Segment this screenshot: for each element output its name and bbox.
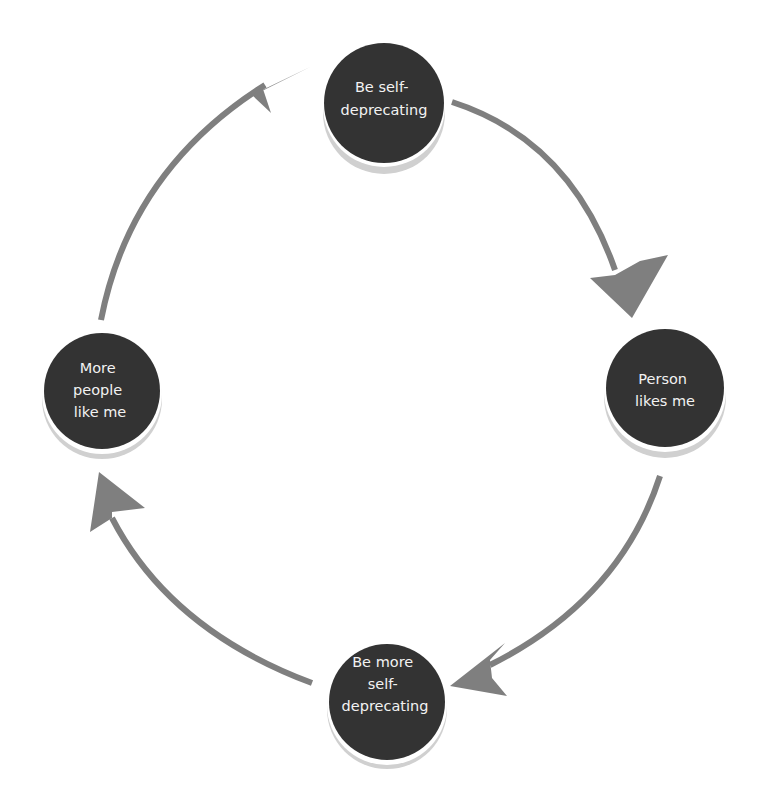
node-right: Person likes me (604, 329, 726, 458)
node-left: More people like me (42, 333, 162, 459)
arrow-top-to-right (452, 102, 615, 270)
arrowhead-top-icon (252, 67, 310, 113)
arrow-right-to-bottom (490, 476, 660, 665)
arrowhead-right-icon (590, 255, 668, 318)
node-label: More people like me (73, 360, 127, 420)
cycle-diagram: Be self- deprecating Person likes me Be … (0, 0, 768, 803)
arrowhead-bottom-icon (450, 643, 507, 696)
node-bottom: Be more self- deprecating (327, 644, 447, 769)
node-top: Be self- deprecating (323, 43, 445, 174)
arrow-left-to-top (101, 85, 265, 320)
arrows (101, 85, 660, 683)
arrow-bottom-to-left (112, 518, 312, 683)
node-circle (606, 329, 724, 447)
